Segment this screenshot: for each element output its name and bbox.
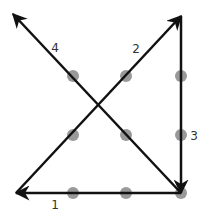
stroke-3-label: 3 — [190, 129, 198, 143]
stroke-lines — [13, 14, 181, 193]
stroke-4-label: 4 — [51, 41, 59, 55]
stroke-4-arrow — [13, 14, 181, 193]
stroke-1-label: 1 — [51, 198, 59, 212]
nine-dots-diagram: 1234 — [0, 0, 212, 215]
stroke-2-label: 2 — [132, 42, 140, 56]
